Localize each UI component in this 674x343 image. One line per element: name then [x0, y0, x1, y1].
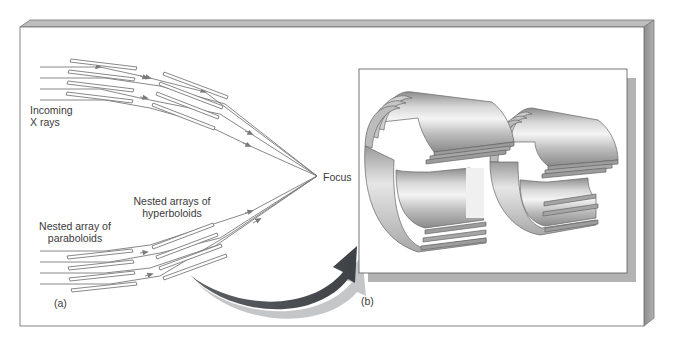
label-paraboloids-line1: Nested array of: [39, 220, 111, 232]
panel-a-tag: (a): [54, 297, 67, 309]
label-paraboloids-line2: paraboloids: [48, 232, 102, 244]
figure-canvas: Incoming X rays Nested arrays of hyperbo…: [0, 0, 674, 343]
label-hyperboloids-line1: Nested arrays of: [133, 195, 210, 207]
label-incoming-line2: X rays: [30, 116, 60, 128]
label-hyperboloids-line2: hyperboloids: [142, 207, 202, 219]
label-focus: Focus: [323, 171, 352, 183]
label-incoming-line1: Incoming: [30, 104, 73, 116]
frame-top-bevel: [20, 20, 654, 27]
frame-right-side: [644, 20, 654, 326]
panel-b-tag: (b): [361, 295, 374, 307]
